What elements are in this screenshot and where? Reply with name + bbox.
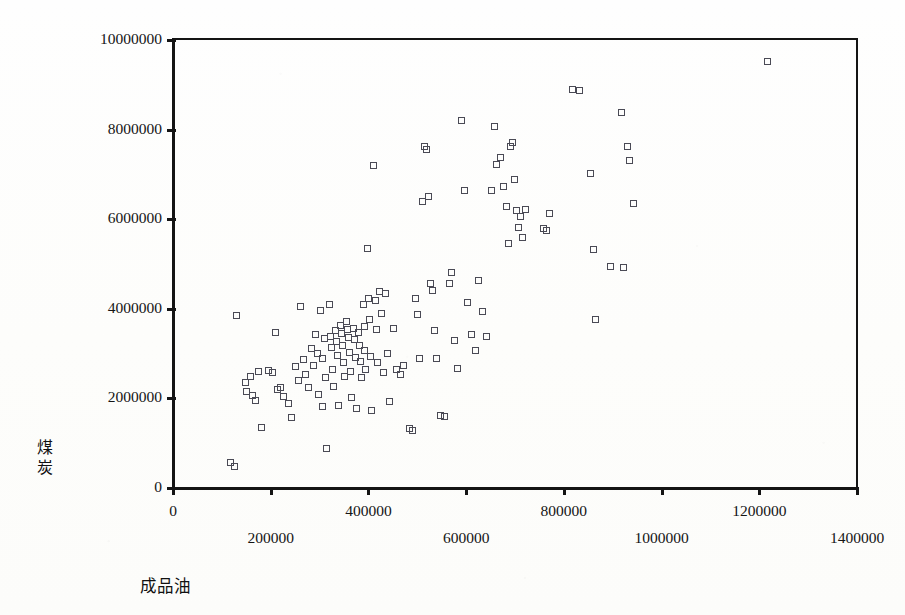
x-axis-tick xyxy=(270,487,273,495)
y-axis-tick-label: 8000000 xyxy=(20,121,162,137)
x-axis-tick xyxy=(661,487,664,495)
scatter-point xyxy=(362,366,369,373)
scatter-point xyxy=(461,187,468,194)
scatter-point xyxy=(493,161,500,168)
scatter-point xyxy=(448,269,455,276)
scatter-point xyxy=(300,356,307,363)
scatter-point xyxy=(497,154,504,161)
y-axis-tick-label: 0 xyxy=(20,479,162,495)
scatter-point xyxy=(382,290,389,297)
scatter-point xyxy=(361,323,368,330)
scatter-point xyxy=(366,316,373,323)
scatter-point xyxy=(288,414,295,421)
scatter-point xyxy=(543,227,550,234)
scatter-point xyxy=(347,368,354,375)
scatter-point xyxy=(319,355,326,362)
scatter-point xyxy=(397,371,404,378)
scatter-point xyxy=(446,280,453,287)
y-axis-title-char: 炭 xyxy=(34,458,56,478)
scatter-point xyxy=(576,87,583,94)
scatter-point xyxy=(277,384,284,391)
y-axis-title-char: 煤 xyxy=(34,438,56,458)
scatter-point xyxy=(285,400,292,407)
scatter-point xyxy=(317,307,324,314)
scatter-plot-area xyxy=(173,40,857,488)
y-axis-tick-label: 6000000 xyxy=(20,210,162,226)
scatter-chart-figure: 0200000040000006000000800000010000000 02… xyxy=(0,0,905,615)
scatter-point xyxy=(280,393,287,400)
scatter-point xyxy=(423,146,430,153)
scatter-point xyxy=(358,374,365,381)
scatter-point xyxy=(360,301,367,308)
scatter-point xyxy=(607,263,614,270)
scatter-point xyxy=(764,58,771,65)
scatter-point xyxy=(400,362,407,369)
x-axis-tick xyxy=(465,487,468,495)
scatter-point xyxy=(378,310,385,317)
scatter-point xyxy=(272,329,279,336)
x-axis-tick-label: 1400000 xyxy=(797,530,905,546)
scatter-point xyxy=(479,308,486,315)
scatter-point xyxy=(464,299,471,306)
scatter-point xyxy=(312,331,319,338)
scatter-point xyxy=(425,193,432,200)
scatter-point xyxy=(509,139,516,146)
scatter-point xyxy=(335,402,342,409)
scatter-point xyxy=(231,463,238,470)
scatter-point xyxy=(384,350,391,357)
y-axis-tick-label: 4000000 xyxy=(20,300,162,316)
scatter-point xyxy=(546,210,553,217)
scatter-point xyxy=(409,427,416,434)
scatter-point xyxy=(519,234,526,241)
x-axis-tick-label: 600000 xyxy=(406,530,526,546)
x-axis-tick-label: 200000 xyxy=(211,530,331,546)
x-axis-tick-label: 1200000 xyxy=(699,503,819,519)
scatter-point xyxy=(305,384,312,391)
scatter-point xyxy=(374,359,381,366)
scatter-point xyxy=(626,157,633,164)
scatter-point xyxy=(373,326,380,333)
scatter-point xyxy=(326,301,333,308)
scatter-point xyxy=(329,366,336,373)
scatter-point xyxy=(592,316,599,323)
x-axis-tick-label: 800000 xyxy=(504,503,624,519)
scatter-point xyxy=(587,170,594,177)
scatter-point xyxy=(416,355,423,362)
scatter-point xyxy=(295,377,302,384)
scatter-point xyxy=(310,362,317,369)
x-axis-title: 成品油 xyxy=(140,573,191,597)
scatter-point xyxy=(500,183,507,190)
scatter-point xyxy=(624,143,631,150)
scatter-point xyxy=(292,363,299,370)
scatter-point xyxy=(319,403,326,410)
scatter-point xyxy=(353,405,360,412)
scatter-point xyxy=(322,374,329,381)
x-axis-tick xyxy=(367,487,370,495)
scatter-point xyxy=(475,277,482,284)
scatter-point xyxy=(357,358,364,365)
scatter-point xyxy=(620,264,627,271)
scatter-point xyxy=(630,200,637,207)
scatter-point xyxy=(340,359,347,366)
scatter-point xyxy=(472,347,479,354)
scatter-point xyxy=(569,86,576,93)
scatter-point xyxy=(491,123,498,130)
scatter-point xyxy=(334,352,341,359)
scatter-point xyxy=(511,176,518,183)
y-axis-title: 煤炭 xyxy=(34,438,56,478)
scatter-point xyxy=(522,206,529,213)
scatter-point xyxy=(255,368,262,375)
scatter-point xyxy=(269,369,276,376)
scatter-point xyxy=(252,397,259,404)
scatter-point xyxy=(618,109,625,116)
scatter-point xyxy=(427,280,434,287)
scatter-point xyxy=(451,337,458,344)
scatter-point xyxy=(370,162,377,169)
scatter-point xyxy=(364,245,371,252)
x-axis-tick xyxy=(563,487,566,495)
scatter-point xyxy=(458,117,465,124)
x-axis-tick-label: 1000000 xyxy=(602,530,722,546)
scatter-point xyxy=(488,187,495,194)
scatter-point xyxy=(414,311,421,318)
scatter-point xyxy=(431,327,438,334)
